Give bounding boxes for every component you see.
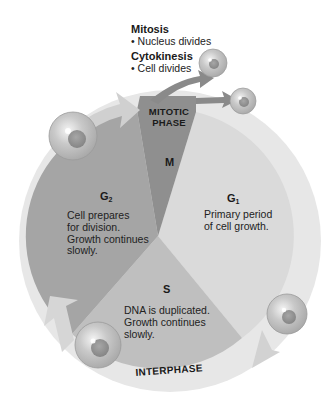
cytokinesis-bullet: • Cell divides	[131, 63, 191, 75]
g2-letter: G	[100, 190, 109, 202]
s-symbol: S	[163, 283, 170, 295]
g1-description: Primary period of cell growth.	[204, 209, 272, 233]
mitotic-phase-line2: PHASE	[143, 118, 195, 129]
s-line: slowly.	[124, 329, 210, 341]
g1-line: of cell growth.	[204, 221, 272, 233]
cell-g1-icon	[267, 294, 307, 334]
g2-line: for division.	[67, 222, 149, 234]
s-line: Growth continues	[124, 317, 210, 329]
s-line: DNA is duplicated.	[124, 305, 210, 317]
mitosis-bullet: • Nucleus divides	[131, 36, 211, 48]
g1-symbol: G1	[227, 192, 239, 206]
daughter-cell-2-icon	[230, 88, 256, 114]
mitotic-phase-label: MITOTIC PHASE	[143, 107, 195, 128]
mitosis-heading: Mitosis	[131, 23, 169, 35]
g2-description: Cell prepares for division. Growth conti…	[67, 210, 149, 257]
cell-g2-icon	[49, 112, 97, 160]
daughter-cell-1-icon	[199, 49, 227, 77]
g2-line: slowly.	[67, 245, 149, 257]
g1-subscript: 1	[236, 198, 240, 205]
s-description: DNA is duplicated. Growth continues slow…	[124, 305, 210, 340]
g1-line: Primary period	[204, 209, 272, 221]
cell-s-icon	[75, 322, 121, 368]
m-symbol: M	[165, 156, 174, 168]
g1-letter: G	[227, 192, 236, 204]
g2-symbol: G2	[100, 190, 112, 204]
g2-subscript: 2	[109, 196, 113, 203]
g2-line: Cell prepares	[67, 210, 149, 222]
cytokinesis-heading: Cytokinesis	[131, 50, 193, 62]
